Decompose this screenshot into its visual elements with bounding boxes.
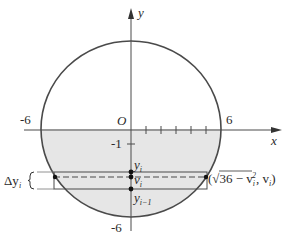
x-tick-label-neg6: -6 bbox=[20, 112, 31, 127]
point-v-i bbox=[129, 175, 134, 180]
y-axis-label: y bbox=[136, 5, 144, 20]
x-tick-label-6: 6 bbox=[226, 112, 233, 127]
y-tick-label-neg6: -6 bbox=[111, 220, 122, 235]
y-axis-arrow-icon bbox=[128, 8, 134, 19]
delta-y-label: Δyi bbox=[4, 173, 21, 190]
brace-icon bbox=[28, 172, 34, 189]
y-tick-label-neg1: -1 bbox=[111, 136, 122, 151]
point-y-i bbox=[129, 170, 134, 175]
point-left-endpoint bbox=[53, 175, 57, 179]
circle-slice-diagram: y x O -6 6 -1 -6 Δyi yi vi yi−1 (√36 − v… bbox=[0, 0, 289, 244]
point-y-i-minus-1 bbox=[129, 187, 134, 192]
x-axis-label: x bbox=[270, 133, 277, 148]
origin-label: O bbox=[117, 113, 127, 128]
endpoint-coordinate-label: (√36 − vi2, vi) bbox=[208, 171, 276, 188]
